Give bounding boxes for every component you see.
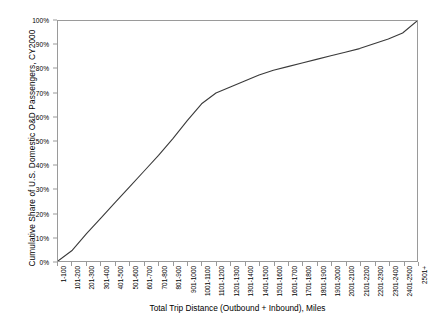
x-axis-tick-mark (173, 262, 174, 266)
x-axis-tick-mark (375, 262, 376, 266)
x-axis-tick-mark (129, 262, 130, 266)
x-axis-tick-mark (158, 262, 159, 266)
x-axis-tick-label: 2301-2400 (392, 266, 399, 297)
x-axis-tick-group: 1-100101-200201-300301-400401-500501-600… (0, 0, 442, 327)
x-axis-tick-mark (389, 262, 390, 266)
x-axis-tick-label: 2001-2100 (348, 266, 355, 297)
x-axis-title: Total Trip Distance (Outbound + Inbound)… (57, 303, 418, 313)
x-axis-tick-label: 1201-1300 (233, 266, 240, 297)
x-axis-tick-label: 1501-1600 (276, 266, 283, 297)
x-axis-tick-mark (216, 262, 217, 266)
x-axis-tick-label: 1101-1200 (218, 266, 225, 296)
x-axis-tick-label: 1001-1100 (204, 266, 211, 296)
x-axis-tick-label: 1701-1800 (305, 266, 312, 297)
x-axis-tick-mark (187, 262, 188, 266)
x-axis-tick-mark (288, 262, 289, 266)
x-axis-tick-mark (144, 262, 145, 266)
x-axis-tick-mark (201, 262, 202, 266)
x-axis-tick-label: 201-300 (88, 266, 95, 289)
x-axis-tick-label: 1401-1500 (262, 266, 269, 297)
x-axis-tick-label: 601-700 (146, 266, 153, 289)
x-axis-tick-label: 2501+ (421, 266, 428, 284)
x-axis-tick-label: 901-1000 (190, 266, 197, 293)
x-axis-tick-mark (71, 262, 72, 266)
x-axis-tick-label: 301-400 (103, 266, 110, 289)
x-axis-tick-label: 1801-1900 (320, 266, 327, 297)
x-axis-tick-label: 1-100 (60, 266, 67, 282)
x-axis-tick-label: 401-500 (117, 266, 124, 289)
x-axis-tick-label: 2101-2200 (363, 266, 370, 297)
x-axis-tick-mark (259, 262, 260, 266)
x-axis-tick-mark (317, 262, 318, 266)
x-axis-tick-label: 801-900 (175, 266, 182, 289)
x-axis-tick-label: 701-800 (161, 266, 168, 289)
x-axis-tick-label: 2201-2300 (377, 266, 384, 297)
x-axis-tick-label: 1901-2000 (334, 266, 341, 297)
x-axis-tick-mark (245, 262, 246, 266)
x-axis-tick-mark (115, 262, 116, 266)
x-axis-tick-label: 2401-2500 (406, 266, 413, 297)
x-axis-tick-mark (346, 262, 347, 266)
x-axis-tick-mark (404, 262, 405, 266)
x-axis-tick-label: 501-600 (132, 266, 139, 289)
x-axis-tick-mark (360, 262, 361, 266)
x-axis-tick-label: 1601-1700 (291, 266, 298, 297)
x-axis-tick-mark (230, 262, 231, 266)
x-axis-tick-mark (100, 262, 101, 266)
x-axis-tick-mark (418, 262, 419, 266)
chart-figure: Cumulative Share of U.S. Domestic O&D Pa… (0, 0, 442, 327)
x-axis-tick-mark (274, 262, 275, 266)
x-axis-tick-label: 1301-1400 (247, 266, 254, 297)
x-axis-tick-label: 101-200 (74, 266, 81, 289)
x-axis-tick-mark (302, 262, 303, 266)
x-axis-tick-mark (331, 262, 332, 266)
x-axis-tick-mark (57, 262, 58, 266)
x-axis-tick-mark (86, 262, 87, 266)
